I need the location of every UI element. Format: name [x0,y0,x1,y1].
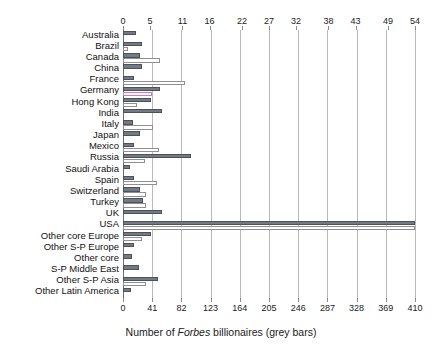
gridline [327,30,328,298]
gridline [357,30,358,298]
bottom-axis-tick-label: 369 [371,303,401,313]
bottom-axis-tick-mark [123,298,124,302]
category-label: Russia [90,152,119,162]
category-label: Brazil [95,41,119,51]
gridline [211,30,212,298]
bar-grey [123,76,134,80]
bar-grey [123,221,415,225]
category-label: Italy [102,119,119,129]
x-axis-title: Number of Forbes billionaires (grey bars… [0,326,442,338]
bottom-axis-tick-mark [386,298,387,302]
bottom-axis-tick-mark [269,298,270,302]
top-axis-tick-label: 43 [341,16,371,26]
category-label: Switzerland [70,186,119,196]
bar-white [123,226,415,230]
top-axis-tick-label: 32 [281,16,311,26]
bar-white [123,192,146,196]
bottom-axis-tick-label: 328 [342,303,372,313]
bottom-axis-tick-mark [327,298,328,302]
bar-grey [123,143,134,147]
bar-grey [123,232,151,236]
category-label: Turkey [90,197,119,207]
bottom-axis-tick-label: 82 [166,303,196,313]
bar-grey [123,277,158,281]
category-label: Other core Europe [41,231,119,241]
bottom-axis-tick-mark [152,298,153,302]
category-label: China [94,63,119,73]
gridline [415,30,416,298]
gridline [240,30,241,298]
bar-white [123,47,128,51]
category-label: India [98,108,119,118]
bar-grey [123,210,162,214]
bottom-axis-tick-mark [415,298,416,302]
category-label: Australia [82,30,119,40]
bar-grey [123,42,142,46]
gridline [269,30,270,298]
top-axis-tick-label: 16 [195,16,225,26]
top-axis-tick-label: 5 [135,16,165,26]
bar-white [123,103,137,107]
bar-grey [123,109,162,113]
bar-grey [123,288,131,292]
bottom-axis-tick-label: 205 [254,303,284,313]
bottom-axis-tick-label: 123 [196,303,226,313]
bar-grey [123,254,132,258]
bar-grey [123,154,191,158]
bar-white [123,282,146,286]
bar-white [123,92,152,96]
bar-white [123,148,159,152]
gridline [386,30,387,298]
category-label: Canada [86,52,119,62]
category-label: USA [99,219,119,229]
bar-grey [123,98,151,102]
category-label: Other Latin America [35,286,119,296]
category-label: Japan [93,130,119,140]
top-axis-tick-mark [150,26,151,30]
category-label: Hong Kong [71,97,119,107]
category-label: Germany [80,85,119,95]
bottom-axis-tick-mark [298,298,299,302]
top-axis-tick-label: 11 [167,16,197,26]
top-axis-tick-label: 38 [313,16,343,26]
top-axis-tick-label: 27 [254,16,284,26]
top-axis-tick-mark [328,26,329,30]
category-label: Other S-P Europe [44,242,119,252]
bar-grey [123,64,142,68]
top-axis-tick-mark [182,26,183,30]
top-axis-tick-mark [388,26,389,30]
bottom-axis-tick-mark [357,298,358,302]
bar-grey [123,31,136,35]
category-label: Saudi Arabia [65,164,119,174]
axis-title-suffix: billionaires (grey bars) [210,326,316,338]
bottom-axis-tick-label: 41 [137,303,167,313]
top-axis-tick-label: 22 [227,16,257,26]
category-label: Other S-P Asia [56,275,119,285]
bottom-axis-tick-mark [240,298,241,302]
bottom-axis-tick-label: 164 [225,303,255,313]
top-axis-tick-label: 49 [373,16,403,26]
bottom-axis-tick-label: 246 [283,303,313,313]
bar-white [123,181,157,185]
bar-grey [123,120,133,124]
bar-grey [123,187,140,191]
gridline [181,30,182,298]
gridline [298,30,299,298]
axis-title-prefix: Number of [126,326,178,338]
bottom-axis-tick-mark [181,298,182,302]
bar-grey [123,131,140,135]
bar-white [123,58,160,62]
category-label: Mexico [89,141,119,151]
category-axis-labels: AustraliaBrazilCanadaChinaFranceGermanyH… [0,0,121,355]
top-axis-tick-mark [242,26,243,30]
bar-white [123,81,185,85]
bar-grey [123,87,160,91]
top-axis-tick-label: 54 [400,16,430,26]
bar-white [123,159,145,163]
top-axis-tick-mark [296,26,297,30]
bottom-axis-tick-label: 287 [312,303,342,313]
axis-title-italic: Forbes [178,326,211,338]
bar-grey [123,243,134,247]
bar-grey [123,176,134,180]
bar-grey [123,265,139,269]
